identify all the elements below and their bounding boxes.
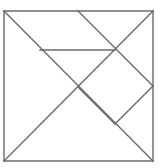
tangram-diagram — [0, 0, 167, 168]
diagram-background — [0, 0, 167, 168]
tangram-figure — [0, 0, 167, 168]
